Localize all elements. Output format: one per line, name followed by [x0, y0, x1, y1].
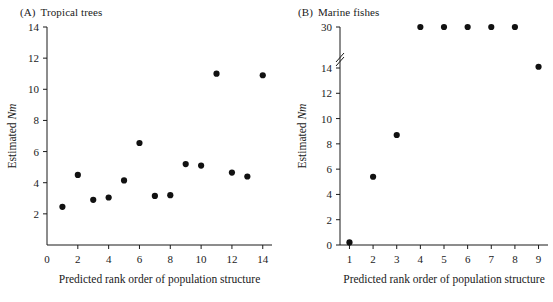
y-tick-label-a-14: 14 [28, 21, 40, 33]
data-point-a-10 [198, 162, 204, 168]
y-tick-label-a-2: 2 [34, 208, 40, 220]
data-point-a-9 [183, 161, 189, 167]
y-tick-label-b-2: 2 [327, 214, 333, 226]
x-tick-label-b-8: 8 [512, 253, 518, 265]
x-tick-label-a-12: 12 [226, 253, 237, 265]
data-point-a-6 [136, 140, 142, 146]
x-tick-label-b-1: 1 [347, 253, 353, 265]
x-tick-label-b-5: 5 [441, 253, 447, 265]
y-tick-label-a-8: 8 [34, 114, 40, 126]
y-tick-label-b-6: 6 [327, 163, 333, 175]
x-tick-label-b-3: 3 [394, 253, 400, 265]
panel-b-plot: 0246810121430123456789Predicted rank ord… [280, 0, 553, 302]
y-axis-title-a: Estimated Nm [6, 104, 18, 169]
panel-a-tropical-trees: (A)Tropical trees 246810121402468101214P… [0, 0, 280, 302]
two-panel-scatter-figure: (A)Tropical trees 246810121402468101214P… [0, 0, 553, 302]
y-tick-label-b-8: 8 [327, 138, 333, 150]
data-point-b-1 [346, 239, 352, 245]
panel-b-marine-fishes: (B)Marine fishes 0246810121430123456789P… [280, 0, 553, 302]
x-tick-label-b-9: 9 [536, 253, 542, 265]
data-point-a-12 [229, 169, 235, 175]
y-tick-label-b-4: 4 [327, 188, 333, 200]
data-point-b-9 [535, 64, 541, 70]
x-axis-title-b: Predicted rank order of population struc… [343, 273, 545, 286]
x-tick-label-a-2: 2 [75, 253, 81, 265]
data-point-a-4 [106, 194, 112, 200]
data-point-a-5 [121, 177, 127, 183]
data-point-b-3 [394, 132, 400, 138]
x-tick-label-a-10: 10 [196, 253, 208, 265]
x-tick-label-b-2: 2 [370, 253, 376, 265]
x-tick-label-a-8: 8 [168, 253, 174, 265]
y-tick-label-b-12: 12 [321, 87, 332, 99]
data-point-b-4 [417, 24, 423, 30]
y-tick-label-a-6: 6 [34, 146, 40, 158]
data-point-a-14 [260, 72, 266, 78]
y-tick-label-a-12: 12 [28, 52, 39, 64]
data-point-a-11 [213, 71, 219, 77]
data-point-a-13 [244, 173, 250, 179]
y-tick-label-b-0: 0 [327, 239, 333, 251]
data-point-b-6 [465, 24, 471, 30]
x-axis-title-a: Predicted rank order of population struc… [59, 273, 261, 286]
y-tick-label-a-10: 10 [28, 83, 40, 95]
panel-a-plot: 246810121402468101214Predicted rank orde… [0, 0, 280, 302]
x-tick-label-b-4: 4 [418, 253, 424, 265]
x-tick-label-a-4: 4 [106, 253, 112, 265]
data-point-b-2 [370, 174, 376, 180]
y-tick-label-a-4: 4 [34, 177, 40, 189]
data-point-a-8 [167, 192, 173, 198]
x-tick-label-a-6: 6 [137, 253, 143, 265]
y-tick-label-b-30: 30 [321, 21, 333, 33]
y-tick-label-b-10: 10 [321, 113, 333, 125]
y-axis-title-b: Estimated Nm [296, 104, 308, 169]
x-tick-label-a-14: 14 [257, 253, 269, 265]
x-tick-label-b-6: 6 [465, 253, 471, 265]
data-point-b-8 [512, 24, 518, 30]
data-point-a-1 [59, 204, 65, 210]
data-point-a-7 [152, 193, 158, 199]
data-point-b-7 [488, 24, 494, 30]
y-tick-label-b-14: 14 [321, 62, 333, 74]
data-point-a-3 [90, 197, 96, 203]
x-tick-label-b-7: 7 [489, 253, 495, 265]
data-point-b-5 [441, 24, 447, 30]
data-point-a-2 [75, 172, 81, 178]
x-tick-label-a-0: 0 [44, 253, 50, 265]
